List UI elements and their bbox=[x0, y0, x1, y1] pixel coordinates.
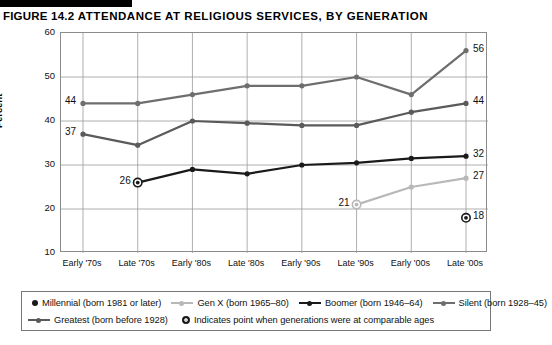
value-label-silent-7: 56 bbox=[473, 43, 484, 54]
legend-item-0: Millennial (born 1981 or later) bbox=[28, 298, 161, 308]
value-label-greatest-7: 44 bbox=[473, 95, 484, 106]
legend-item-1: Gen X (born 1965–80) bbox=[171, 298, 289, 308]
legend-item-4: Greatest (born before 1928) bbox=[28, 315, 168, 325]
legend-item-3: Silent (born 1928–45) bbox=[433, 298, 547, 308]
value-label-boomer-1: 26 bbox=[111, 175, 131, 186]
legend-line-icon bbox=[171, 299, 193, 307]
legend-line-icon bbox=[299, 299, 321, 307]
legend-item-2: Boomer (born 1946–64) bbox=[299, 298, 423, 308]
legend-label-4: Greatest (born before 1928) bbox=[54, 315, 168, 325]
figure-number: FIGURE 14.2 bbox=[3, 10, 74, 22]
header-rule bbox=[0, 0, 132, 7]
y-tick-20: 20 bbox=[15, 202, 55, 213]
value-label-millennial-7: 18 bbox=[473, 210, 484, 221]
legend-label-5: Indicates point when generations were at… bbox=[194, 315, 434, 325]
legend-label-0: Millennial (born 1981 or later) bbox=[42, 298, 161, 308]
legend-item-5: Indicates point when generations were at… bbox=[178, 315, 434, 325]
y-tick-60: 60 bbox=[15, 26, 55, 37]
value-label-gen-5: 21 bbox=[330, 197, 350, 208]
legend-line-icon bbox=[433, 299, 455, 307]
chart-canvas bbox=[61, 33, 488, 253]
legend-label-1: Gen X (born 1965–80) bbox=[197, 298, 289, 308]
figure-title: FIGURE 14.2 ATTENDANCE AT RELIGIOUS SERV… bbox=[3, 10, 428, 22]
y-tick-10: 10 bbox=[15, 246, 55, 257]
legend-row-primary: Millennial (born 1981 or later)Gen X (bo… bbox=[28, 294, 552, 312]
y-tick-50: 50 bbox=[15, 70, 55, 81]
y-tick-40: 40 bbox=[15, 114, 55, 125]
y-axis-label: Percent bbox=[0, 94, 4, 128]
legend-label-2: Boomer (born 1946–64) bbox=[325, 298, 423, 308]
legend-row-secondary: Greatest (born before 1928)Indicates poi… bbox=[28, 311, 444, 329]
value-label-silent-0: 44 bbox=[56, 95, 76, 106]
value-label-boomer-7: 32 bbox=[473, 148, 484, 159]
legend-dot-icon bbox=[32, 300, 38, 306]
value-label-greatest-0: 37 bbox=[56, 126, 76, 137]
y-tick-30: 30 bbox=[15, 158, 55, 169]
legend-line-icon bbox=[28, 316, 50, 324]
figure-title-text: ATTENDANCE AT RELIGIOUS SERVICES, BY GEN… bbox=[78, 10, 428, 22]
plot-area bbox=[60, 32, 487, 252]
legend-ring-dot-icon bbox=[182, 316, 190, 324]
value-label-gen-7: 27 bbox=[473, 170, 484, 181]
x-tick-7: Late '00s bbox=[425, 258, 505, 268]
legend-label-3: Silent (born 1928–45) bbox=[459, 298, 547, 308]
legend: Millennial (born 1981 or later)Gen X (bo… bbox=[21, 291, 491, 331]
